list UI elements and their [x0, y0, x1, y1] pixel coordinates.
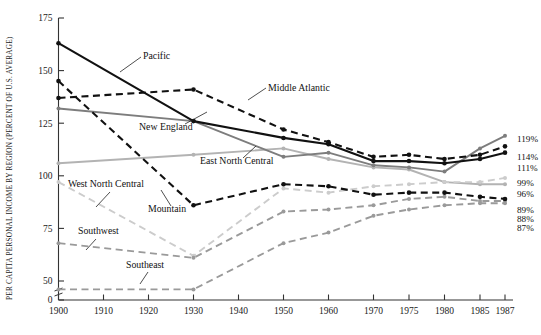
- leader-line: [86, 239, 96, 250]
- data-point: [192, 287, 196, 291]
- x-tick: 1985: [471, 295, 490, 316]
- x-tick: 1970: [364, 295, 383, 316]
- y-tick: 125: [38, 119, 64, 129]
- x-tick-label: 1970: [364, 306, 383, 316]
- data-point: [192, 256, 196, 260]
- data-point: [281, 136, 286, 141]
- data-point: [503, 144, 508, 149]
- data-point: [372, 203, 376, 207]
- data-point: [371, 155, 376, 160]
- data-point: [56, 79, 61, 84]
- y-tick-label: 50: [43, 276, 53, 286]
- x-tick: 1975: [400, 295, 419, 316]
- data-point: [57, 180, 61, 184]
- data-point: [372, 184, 376, 188]
- end-value-label: 111%: [517, 163, 538, 173]
- data-point: [442, 157, 447, 162]
- y-tick: 150: [38, 66, 64, 76]
- y-tick-label: 125: [38, 119, 53, 129]
- data-point: [282, 155, 286, 159]
- data-point: [327, 151, 331, 155]
- end-value-label: 87%: [517, 223, 534, 233]
- data-point: [442, 161, 447, 166]
- data-point: [443, 170, 447, 174]
- x-tick: 1920: [139, 295, 158, 316]
- data-point: [443, 203, 447, 207]
- data-point: [327, 207, 331, 211]
- data-point: [282, 210, 286, 214]
- x-tick-label: 1920: [139, 306, 158, 316]
- series-line-southeast: [59, 203, 506, 289]
- data-point: [57, 241, 61, 245]
- data-point: [503, 176, 507, 180]
- data-point: [56, 41, 61, 46]
- data-point: [407, 165, 411, 169]
- end-value-label: 96%: [517, 189, 534, 199]
- x-tick-label: 1950: [274, 306, 293, 316]
- data-point: [327, 157, 331, 161]
- end-value-label: 119%: [517, 134, 538, 144]
- data-point: [282, 186, 286, 190]
- data-point: [503, 150, 508, 155]
- x-tick: 1930: [184, 295, 203, 316]
- line-chart: 0507510012515017519001910192019301940195…: [0, 0, 541, 335]
- x-tick-label: 1985: [471, 306, 490, 316]
- data-point: [503, 182, 507, 186]
- series-label-west-north-central: West North Central: [68, 178, 144, 189]
- data-point: [407, 182, 411, 186]
- y-tick: 175: [38, 13, 64, 23]
- leader-line: [96, 192, 110, 207]
- x-tick: 1960: [319, 295, 338, 316]
- x-tick: 1987: [496, 295, 515, 316]
- data-point: [503, 197, 508, 202]
- data-point: [282, 146, 286, 150]
- x-tick-label: 1910: [94, 306, 113, 316]
- series-label-southwest: Southwest: [78, 225, 119, 236]
- data-point: [478, 146, 482, 150]
- data-point: [327, 191, 331, 195]
- data-point: [503, 134, 507, 138]
- x-tick: 1980: [435, 295, 454, 316]
- y-tick-label: 75: [43, 224, 53, 234]
- data-point: [371, 192, 376, 197]
- data-point: [478, 195, 483, 200]
- data-point: [478, 180, 482, 184]
- end-value-label: 114%: [517, 152, 538, 162]
- y-tick: 75: [43, 224, 64, 234]
- x-tick-label: 1930: [184, 306, 203, 316]
- data-point: [442, 190, 447, 195]
- data-point: [407, 159, 412, 164]
- y-tick-label: 150: [38, 66, 53, 76]
- x-tick-label: 1960: [319, 306, 338, 316]
- data-point: [327, 231, 331, 235]
- x-tick-label: 1940: [229, 306, 248, 316]
- data-point: [407, 207, 411, 211]
- data-point: [326, 184, 331, 189]
- data-point: [57, 161, 61, 165]
- series-label-middle-atlantic: Middle Atlantic: [268, 82, 330, 93]
- x-tick-label: 1987: [496, 306, 515, 316]
- end-value-label: 99%: [517, 178, 534, 188]
- series-label-east-north-central: East North Central: [200, 155, 274, 166]
- y-tick-label: 175: [38, 13, 53, 23]
- data-point: [478, 199, 482, 203]
- data-point: [57, 287, 61, 291]
- y-axis-title: PER CAPITA PERSONAL INCOME BY REGION (PE…: [6, 36, 14, 300]
- data-point: [371, 159, 376, 164]
- series-label-mountain: Mountain: [148, 203, 186, 214]
- data-point: [56, 96, 61, 101]
- leader-line: [140, 272, 148, 284]
- data-point: [443, 195, 447, 199]
- data-point: [326, 140, 331, 145]
- series-label-southeast: Southeast: [126, 259, 164, 270]
- data-point: [372, 163, 376, 167]
- y-tick: 100: [38, 171, 64, 181]
- leader-line: [120, 57, 141, 72]
- x-tick: 1940: [229, 295, 248, 316]
- data-point: [191, 203, 196, 208]
- x-tick: 1950: [274, 295, 293, 316]
- series-line-pacific: [59, 43, 506, 163]
- data-point: [478, 157, 483, 162]
- x-tick-label: 1900: [49, 306, 68, 316]
- x-tick: 1910: [94, 295, 113, 316]
